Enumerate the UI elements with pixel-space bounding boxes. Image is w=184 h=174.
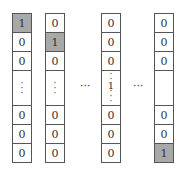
- vector-cell: 0: [13, 125, 31, 144]
- vector-cell: 0: [46, 144, 64, 163]
- vector-cell: 0: [13, 52, 31, 71]
- ellipsis-separator: ···: [133, 80, 144, 93]
- vector-cell: 0: [46, 125, 64, 144]
- vector-cell: ···: [13, 71, 31, 106]
- vector-cell: 0: [102, 33, 120, 52]
- vector-cell: 0: [155, 52, 173, 71]
- vector-cell: 0: [155, 125, 173, 144]
- vector-cell: 0: [102, 144, 120, 163]
- vector-cell: ···: [46, 71, 64, 106]
- vector-column-3: 000··1···000: [101, 13, 121, 163]
- vector-cell: 0: [102, 125, 120, 144]
- vector-cell: 0: [102, 14, 120, 33]
- vector-cell: 0: [102, 106, 120, 125]
- vector-cell: 1: [155, 144, 173, 163]
- vector-cell: 0: [46, 106, 64, 125]
- vector-cell: 0: [46, 52, 64, 71]
- vector-cell: 1: [13, 14, 31, 33]
- vector-cell: 0: [13, 106, 31, 125]
- vector-cell: 0: [155, 33, 173, 52]
- vector-cell: 0: [155, 106, 173, 125]
- vector-cell: 1: [46, 33, 64, 52]
- ellipsis-separator: ···: [80, 80, 91, 93]
- vector-column-2: 010···000: [45, 13, 65, 163]
- vector-cell: 0: [13, 33, 31, 52]
- vector-cell: 0: [46, 14, 64, 33]
- vector-column-4: 000001: [154, 13, 174, 163]
- vector-cell: 0: [13, 144, 31, 163]
- vector-cell: 0: [155, 14, 173, 33]
- vector-column-1: 100···000: [12, 13, 32, 163]
- vector-cell: ··1···: [102, 71, 120, 106]
- vector-cell: [155, 71, 173, 106]
